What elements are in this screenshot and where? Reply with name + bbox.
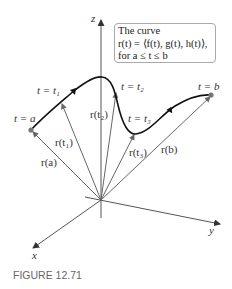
label-t-b: t = b [198, 80, 220, 92]
x-axis-label: x [31, 249, 37, 261]
vector-r-b [101, 97, 210, 200]
infobox-line-1: The curve [118, 25, 212, 38]
label-t-2: t = t₂ [121, 80, 144, 92]
label-r-b: r(b) [161, 143, 178, 156]
label-t-1: t = t₁ [37, 84, 60, 96]
label-t-3: t = t₃ [128, 112, 151, 124]
point-b [208, 92, 213, 97]
label-r-t1: r(t₁) [55, 136, 73, 149]
y-axis-label: y [208, 224, 214, 236]
label-r-a: r(a) [41, 156, 57, 169]
label-r-t3: r(t₃) [129, 146, 147, 159]
x-axis [33, 200, 101, 248]
z-axis-label: z [90, 12, 96, 24]
y-axis [85, 197, 220, 224]
label-t-a: t = a [14, 112, 36, 124]
figure-caption: FIGURE 12.71 [13, 269, 82, 281]
infobox-line-2: r(t) = ⟨f(t), g(t), h(t)⟩, [118, 38, 212, 51]
point-a [28, 127, 33, 132]
label-r-t2: r(t₂) [90, 108, 108, 121]
curve-definition-box: The curve r(t) = ⟨f(t), g(t), h(t)⟩, for… [114, 23, 216, 63]
infobox-line-3: for a ≤ t ≤ b [118, 50, 212, 63]
